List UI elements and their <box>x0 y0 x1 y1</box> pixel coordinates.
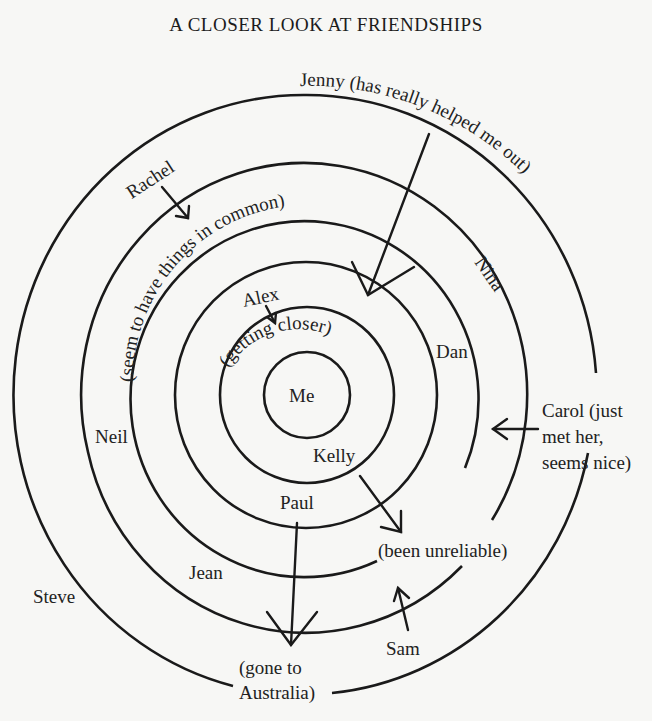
label-alex: Alex <box>240 283 281 311</box>
label-getting-closer: (getting closer) <box>214 312 335 371</box>
label-gone-line2: Australia) <box>239 682 315 704</box>
label-paul: Paul <box>280 492 314 513</box>
label-gone-line1: (gone to <box>239 657 302 679</box>
label-carol-line1: Carol (just <box>542 400 623 422</box>
arrow-kelly <box>360 476 401 532</box>
label-kelly: Kelly <box>313 445 356 466</box>
label-dan: Dan <box>436 341 468 362</box>
label-jean: Jean <box>189 562 223 583</box>
label-steve: Steve <box>33 586 75 607</box>
label-me: Me <box>289 385 314 406</box>
arrow-jenny <box>352 134 429 295</box>
arrow-carol <box>493 419 538 439</box>
label-carol-line3: seems nice) <box>542 452 631 474</box>
arrow-paul <box>267 523 317 645</box>
label-neil: Neil <box>95 426 128 447</box>
label-sam: Sam <box>386 638 420 659</box>
label-unreliable: (been unreliable) <box>378 540 507 562</box>
label-carol-line2: met her, <box>542 426 604 447</box>
friendship-diagram: Jenny (has really helped me out) (seem t… <box>0 0 652 721</box>
